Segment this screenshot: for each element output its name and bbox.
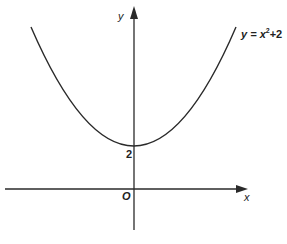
equation-lhs: y = x bbox=[240, 28, 267, 40]
equation-rhs: +2 bbox=[270, 28, 283, 40]
y-axis-label: y bbox=[117, 10, 125, 22]
origin-label: O bbox=[122, 190, 131, 202]
svg-text:y = x2+2: y = x2+2 bbox=[240, 27, 282, 40]
graph-canvas: y x O 2 y = x2+2 bbox=[0, 0, 287, 244]
y-intercept-label: 2 bbox=[126, 148, 132, 160]
equation-label: y = x2+2 bbox=[240, 27, 282, 40]
x-axis-label: x bbox=[243, 191, 250, 203]
y-axis-arrow-icon bbox=[130, 6, 138, 19]
